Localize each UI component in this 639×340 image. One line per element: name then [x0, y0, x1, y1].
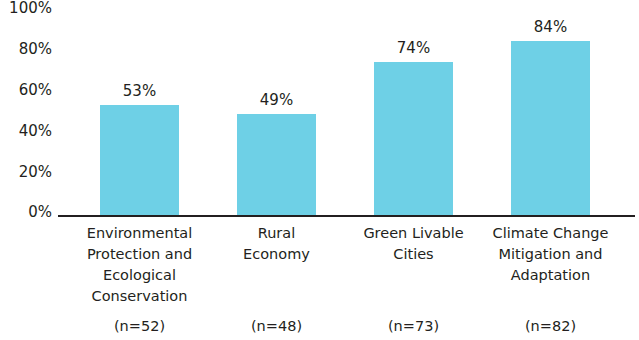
sample-size-label: (n=82)	[484, 317, 617, 335]
y-tick-label: 60%	[19, 83, 52, 98]
bar-slot: 49%	[213, 8, 340, 215]
sample-size-label: (n=52)	[73, 317, 206, 335]
bar-value-label: 74%	[350, 40, 477, 56]
bar-slot: 74%	[350, 8, 477, 215]
sample-size-label: (n=73)	[347, 317, 480, 335]
category-line: Rural	[210, 223, 343, 244]
bar-value-label: 49%	[213, 92, 340, 108]
category-rural-economy: Rural Economy (n=48)	[210, 223, 343, 335]
y-tick-label: 100%	[9, 1, 52, 16]
y-tick-label: 0%	[28, 205, 52, 220]
plot-area: 53% 49% 74% 84%	[58, 8, 633, 215]
category-line: Climate Change	[484, 223, 617, 244]
y-tick-label: 40%	[19, 124, 52, 139]
bar-value-label: 53%	[76, 83, 203, 99]
category-line: Ecological	[73, 265, 206, 286]
category-line: Conservation	[73, 286, 206, 307]
y-tick-label: 20%	[19, 165, 52, 180]
category-line: Green Livable	[347, 223, 480, 244]
bar-slot: 84%	[487, 8, 614, 215]
sample-size-label: (n=48)	[210, 317, 343, 335]
bar-slot: 53%	[76, 8, 203, 215]
category-line: Economy	[210, 244, 343, 265]
category-line: Cities	[347, 244, 480, 265]
bar-value-label: 84%	[487, 19, 614, 35]
category-line: Protection and	[73, 244, 206, 265]
bar-environmental-protection[interactable]	[100, 105, 179, 215]
y-tick-label: 80%	[19, 42, 52, 57]
category-environmental-protection: Environmental Protection and Ecological …	[73, 223, 206, 335]
category-green-livable-cities: Green Livable Cities (n=73)	[347, 223, 480, 335]
category-line: Adaptation	[484, 265, 617, 286]
category-line: Environmental	[73, 223, 206, 244]
bar-green-livable-cities[interactable]	[374, 62, 453, 215]
category-line: Mitigation and	[484, 244, 617, 265]
x-axis-line	[58, 215, 635, 217]
bar-rural-economy[interactable]	[237, 114, 316, 215]
bar-chart: 100% 80% 60% 40% 20% 0% 53% 49% 74% 84% …	[0, 0, 639, 340]
category-climate-change: Climate Change Mitigation and Adaptation…	[484, 223, 617, 335]
x-axis-categories: Environmental Protection and Ecological …	[58, 223, 635, 333]
y-axis: 100% 80% 60% 40% 20% 0%	[0, 0, 58, 220]
bar-climate-change[interactable]	[511, 41, 590, 215]
